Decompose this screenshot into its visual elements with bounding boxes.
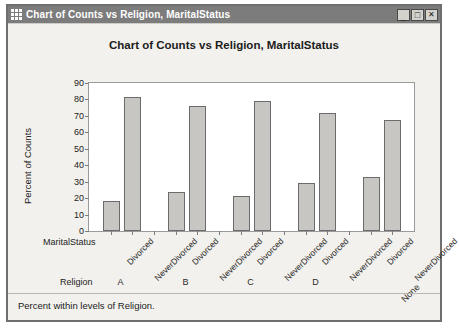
window-client-area: Chart of Counts vs Religion, MaritalStat… (8, 23, 440, 320)
y-axis-title: Percent of Counts (22, 106, 36, 226)
group-separator-tick (219, 231, 220, 235)
x-axis-label-divorced: Divorced (385, 236, 416, 267)
close-button[interactable]: ✕ (425, 9, 438, 21)
y-tick-label: 80 (74, 94, 84, 104)
x-axis-label-divorced: Divorced (190, 236, 221, 267)
chart-grid-icon (11, 9, 22, 20)
x-axis-label-neverdivorced: NeverDivorced (152, 236, 199, 283)
religion-group-label: A (117, 277, 123, 287)
x-tick-mark (197, 231, 198, 235)
x-tick-mark (371, 231, 372, 235)
y-tick-mark (85, 198, 89, 199)
window-title: Chart of Counts vs Religion, MaritalStat… (26, 9, 396, 20)
plot-area: 0102030405060708090 (88, 82, 415, 232)
chart-window: Chart of Counts vs Religion, MaritalStat… (6, 4, 442, 322)
y-tick-mark (85, 149, 89, 150)
group-separator-tick (349, 231, 350, 235)
y-tick-label: 60 (74, 127, 84, 137)
bar[interactable] (384, 120, 401, 231)
group-separator-tick (154, 231, 155, 235)
bar[interactable] (124, 97, 141, 231)
x-tick-mark (327, 231, 328, 235)
bar[interactable] (233, 196, 250, 231)
y-tick-label: 40 (74, 160, 84, 170)
x-axis-label-divorced: Divorced (125, 236, 156, 267)
y-tick-label: 20 (74, 193, 84, 203)
maximize-icon: □ (412, 10, 423, 20)
x-axis-label-divorced: Divorced (255, 236, 286, 267)
y-tick-mark (85, 182, 89, 183)
bar[interactable] (189, 106, 206, 231)
chart-footer: Percent within levels of Religion. (8, 293, 440, 320)
y-tick-mark (85, 99, 89, 100)
bar[interactable] (319, 113, 336, 231)
bar[interactable] (254, 101, 271, 231)
bar[interactable] (363, 177, 380, 231)
plot-wrapper: Percent of Counts 0102030405060708090 Ma… (8, 24, 440, 293)
x-axis-label-neverdivorced: NeverDivorced (282, 236, 329, 283)
x-tick-mark (392, 231, 393, 235)
minimize-button[interactable]: _ (397, 9, 410, 21)
y-tick-mark (85, 231, 89, 232)
y-tick-label: 10 (74, 210, 84, 220)
x-tick-mark (262, 231, 263, 235)
x-tick-mark (176, 231, 177, 235)
y-tick-mark (85, 165, 89, 166)
y-tick-mark (85, 132, 89, 133)
window-titlebar[interactable]: Chart of Counts vs Religion, MaritalStat… (8, 6, 440, 23)
y-tick-mark (85, 215, 89, 216)
x-tick-mark (111, 231, 112, 235)
close-icon: ✕ (426, 10, 437, 20)
footnote-text: Percent within levels of Religion. (18, 300, 155, 311)
bar[interactable] (168, 192, 185, 231)
x-axis-label-neverdivorced: NeverDivorced (347, 236, 394, 283)
bar[interactable] (298, 183, 315, 231)
y-tick-label: 30 (74, 177, 84, 187)
y-tick-label: 70 (74, 111, 84, 121)
x-tick-mark (241, 231, 242, 235)
y-tick-label: 90 (74, 78, 84, 88)
bar[interactable] (103, 201, 120, 231)
religion-group-label: C (247, 277, 254, 287)
y-tick-mark (85, 116, 89, 117)
maximize-button[interactable]: □ (411, 9, 424, 21)
x-tick-mark (306, 231, 307, 235)
x-axis-label-divorced: Divorced (320, 236, 351, 267)
x-axis-label-neverdivorced: NeverDivorced (412, 236, 459, 283)
y-tick-label: 0 (79, 226, 84, 236)
x-tick-mark (132, 231, 133, 235)
y-tick-label: 50 (74, 144, 84, 154)
religion-group-label: D (312, 277, 319, 287)
chart-panel[interactable]: Chart of Counts vs Religion, MaritalStat… (8, 24, 440, 293)
religion-group-label: B (182, 277, 188, 287)
minimize-icon: _ (398, 10, 409, 20)
axis-name-maritalstatus: MaritalStatus (43, 237, 96, 247)
axis-name-religion: Religion (60, 277, 93, 287)
y-tick-mark (85, 83, 89, 84)
x-axis-label-neverdivorced: NeverDivorced (217, 236, 264, 283)
group-separator-tick (284, 231, 285, 235)
